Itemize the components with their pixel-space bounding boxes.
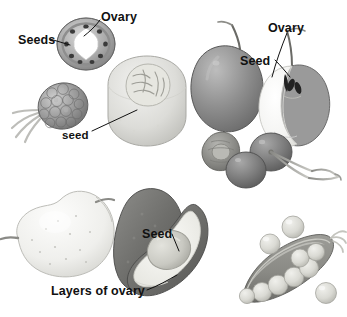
label-seed-avocado: Seed bbox=[142, 228, 172, 241]
label-ovary-apple: Ovary bbox=[268, 22, 304, 35]
label-layers-of-ovary: Layers of ovary bbox=[51, 285, 145, 298]
botanical-illustration bbox=[0, 0, 347, 317]
label-seeds-top-left: Seeds bbox=[18, 34, 55, 47]
label-seed-apple: Seed bbox=[240, 55, 270, 68]
peach-seed-cavity bbox=[126, 64, 170, 106]
specimen-peach-half bbox=[108, 56, 186, 146]
label-seed-lower-left: seed bbox=[62, 130, 89, 142]
label-ovary-top-left: Ovary bbox=[101, 11, 137, 24]
figure-canvas: Ovary Seeds seed Ovary Seed Seed Layers … bbox=[0, 0, 347, 317]
